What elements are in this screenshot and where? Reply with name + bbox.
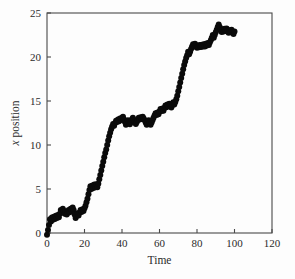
- y-axis-ticks: [47, 13, 51, 233]
- x-tick-label-100: 100: [226, 237, 243, 249]
- y-tick-label-20: 20: [30, 51, 42, 63]
- x-axis-ticks: [47, 229, 272, 233]
- plot-frame: [47, 13, 272, 233]
- y-tick-label-10: 10: [30, 139, 42, 151]
- x-tick-label-80: 80: [192, 237, 204, 249]
- y-tick-label-5: 5: [36, 183, 42, 195]
- x-axis-title: Time: [148, 254, 172, 266]
- x-tick-label-60: 60: [154, 237, 166, 249]
- x-axis-tick-labels: 020406080100120: [44, 237, 281, 249]
- scatter-plot-figure: 020406080100120 0510152025 Time x positi…: [0, 0, 295, 279]
- y-tick-label-0: 0: [36, 227, 42, 239]
- data-point: [232, 28, 238, 34]
- axes-box: [47, 13, 272, 233]
- y-axis-title: x position: [9, 100, 22, 146]
- x-tick-label-0: 0: [44, 237, 50, 249]
- y-axis-tick-labels: 0510152025: [30, 7, 42, 239]
- plot-canvas: 020406080100120 0510152025 Time x positi…: [0, 0, 295, 279]
- y-tick-label-25: 25: [30, 7, 42, 19]
- x-tick-label-20: 20: [79, 237, 91, 249]
- y-tick-label-15: 15: [30, 95, 42, 107]
- data-points: [44, 21, 238, 237]
- x-tick-label-40: 40: [117, 237, 129, 249]
- x-tick-label-120: 120: [264, 237, 281, 249]
